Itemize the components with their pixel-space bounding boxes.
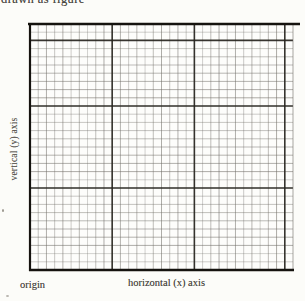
graph-paper-worksheet: drawn as figure vertical (y) axis origin…	[0, 0, 305, 301]
y-axis-label: vertical (y) axis	[9, 104, 19, 194]
scan-speck	[6, 295, 9, 297]
origin-label: origin	[20, 279, 45, 290]
x-axis-label: horizontal (x) axis	[128, 277, 205, 288]
graph-grid	[0, 0, 305, 301]
grid-lines	[0, 0, 305, 301]
scan-speck	[2, 209, 4, 212]
